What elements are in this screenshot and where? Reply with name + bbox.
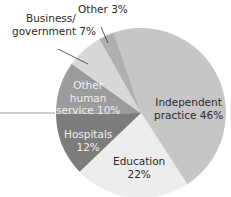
label-independent: Independent practice 46% [154, 96, 223, 121]
label-independent-line1: Independent [154, 96, 223, 109]
label-education-line2: 22% [113, 168, 165, 181]
label-hospitals-line1: Hospitals [64, 128, 112, 141]
label-education-line1: Education [113, 155, 165, 168]
label-other-human-line1: Other [56, 79, 120, 92]
label-education: Education 22% [113, 155, 165, 180]
label-business-line1: Business/ [12, 12, 96, 25]
label-business: Business/ government 7% [12, 12, 96, 37]
label-other-human-line3: service 10% [56, 104, 120, 117]
label-business-line2: government 7% [12, 25, 96, 38]
label-other-human-line2: human [56, 92, 120, 105]
label-other-human: Other human service 10% [56, 79, 120, 117]
label-hospitals: Hospitals 12% [64, 128, 112, 153]
label-independent-line2: practice 46% [154, 109, 223, 122]
label-hospitals-line2: 12% [64, 141, 112, 154]
